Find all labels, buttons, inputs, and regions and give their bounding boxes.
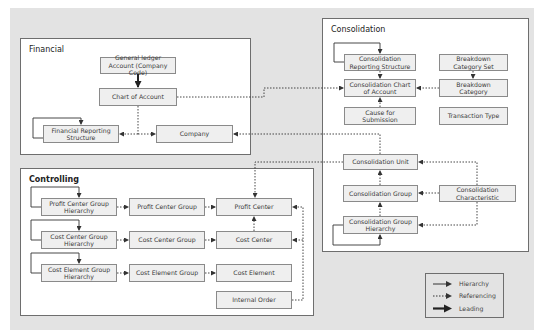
node-cause-for-submission[interactable]: Cause for Submission: [344, 107, 416, 125]
node-cost-element-group-hierarchy[interactable]: Cost Element Group Hierarchy: [41, 264, 117, 282]
node-cost-center[interactable]: Cost Center: [216, 231, 292, 249]
node-consolidation-unit[interactable]: Consolidation Unit: [343, 154, 418, 170]
legend-referencing-icon: [433, 292, 453, 300]
node-chart-of-account[interactable]: Chart of Account: [99, 88, 177, 106]
financial-panel-title: Financial: [29, 45, 64, 54]
node-internal-order[interactable]: Internal Order: [216, 291, 292, 309]
legend-label-leading: Leading: [459, 305, 483, 312]
legend-label-referencing: Referencing: [459, 292, 496, 299]
node-consolidation-reporting-structure[interactable]: Consolidation Reporting Structure: [344, 54, 416, 71]
node-profit-center-group[interactable]: Profit Center Group: [129, 198, 205, 216]
legend-label-hierarchy: Hierarchy: [459, 280, 489, 287]
legend: Hierarchy Referencing Leading: [425, 273, 504, 318]
legend-leading-icon: [433, 304, 453, 313]
node-cost-element-group[interactable]: Cost Element Group: [129, 264, 205, 282]
node-cost-element[interactable]: Cost Element: [216, 264, 292, 282]
node-financial-reporting-structure[interactable]: Financial Reporting Structure: [43, 125, 119, 143]
node-breakdown-category-set[interactable]: Breakdown Category Set: [439, 54, 508, 71]
consolidation-panel-title: Consolidation: [331, 25, 385, 34]
node-cost-center-group-hierarchy[interactable]: Cost Center Group Hierarchy: [41, 231, 117, 249]
node-general-ledger-account[interactable]: General ledger Account (Company Code): [100, 57, 176, 74]
node-consolidation-group[interactable]: Consolidation Group: [343, 185, 418, 202]
node-company[interactable]: Company: [156, 125, 233, 143]
node-consolidation-characteristic[interactable]: Consolidation Characteristic: [439, 185, 516, 202]
legend-hierarchy-icon: [433, 280, 453, 288]
node-consolidation-chart-of-account[interactable]: Consolidation Chart of Account: [344, 79, 416, 97]
node-consolidation-group-hierarchy[interactable]: Consolidation Group Hierarchy: [343, 216, 418, 234]
node-cost-center-group[interactable]: Cost Center Group: [129, 231, 205, 249]
node-transaction-type[interactable]: Transaction Type: [439, 107, 508, 125]
node-profit-center-group-hierarchy[interactable]: Profit Center Group Hierarchy: [41, 198, 117, 216]
controlling-panel-title: Controlling: [29, 175, 79, 184]
node-breakdown-category[interactable]: Breakdown Category: [439, 79, 508, 97]
node-profit-center[interactable]: Profit Center: [216, 198, 292, 216]
